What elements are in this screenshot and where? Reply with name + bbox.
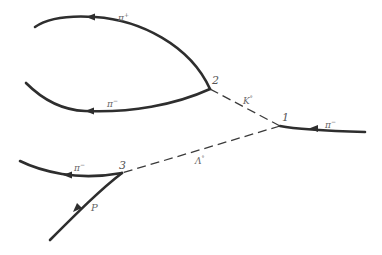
track-incoming-pi-minus — [280, 126, 365, 132]
track-pi-minus-2 — [26, 83, 210, 111]
track-proton — [50, 173, 122, 240]
label-lambda0: Λ° — [195, 155, 205, 166]
arrow-icon — [85, 108, 94, 115]
label-incoming-pi-minus: π− — [325, 119, 336, 130]
label-pi-minus-from-2: π− — [107, 98, 118, 109]
label-pi-plus: π+ — [118, 12, 129, 23]
label-k0: K° — [243, 95, 253, 106]
arrow-icon — [63, 172, 72, 179]
vertex-3-label: 3 — [119, 160, 126, 171]
vertex-2-label: 2 — [212, 75, 219, 86]
arrow-icon — [86, 14, 95, 21]
label-pi-minus-from-3: π− — [74, 162, 85, 173]
label-proton: P — [91, 203, 98, 213]
vertex-1-label: 1 — [282, 112, 289, 123]
track-pi-plus — [35, 17, 210, 89]
